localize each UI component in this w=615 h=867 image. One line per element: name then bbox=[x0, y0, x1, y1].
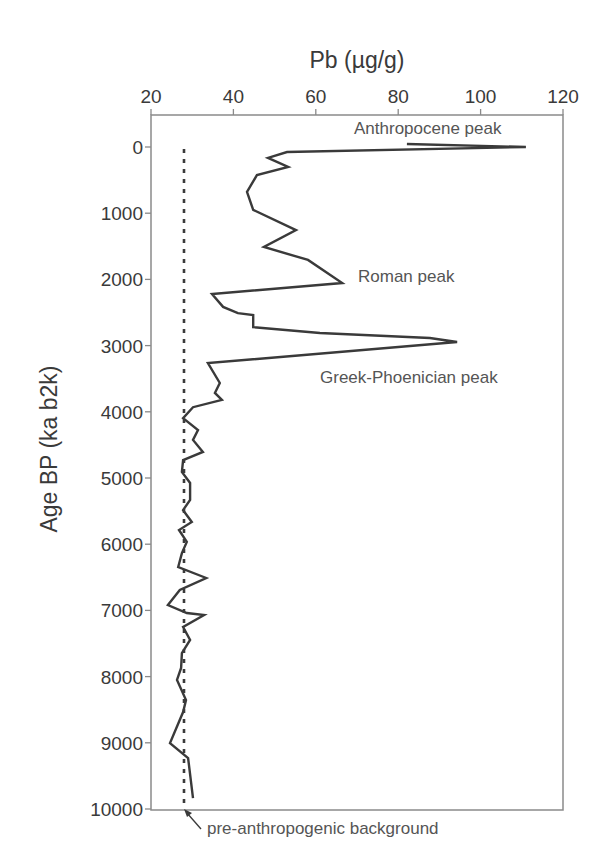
y-axis-title: Age BP (ka b2k) bbox=[36, 365, 62, 532]
pb-age-chart: 20406080100120 0100020003000400050006000… bbox=[0, 0, 615, 867]
y-tick-label: 3000 bbox=[101, 336, 143, 357]
annotation-roman-peak: Roman peak bbox=[358, 267, 455, 286]
y-tick-label: 6000 bbox=[101, 534, 143, 555]
x-tick-label: 120 bbox=[547, 86, 579, 107]
y-tick-label: 0 bbox=[132, 137, 143, 158]
y-tick-label: 5000 bbox=[101, 468, 143, 489]
annotation-pre-anthropogenic-background: pre-anthropogenic background bbox=[207, 819, 439, 838]
annotation-greek-phoenician-peak: Greek-Phoenician peak bbox=[320, 368, 498, 387]
x-tick-label: 20 bbox=[140, 86, 161, 107]
plot-frame bbox=[151, 115, 563, 810]
background-arrow-icon bbox=[184, 809, 201, 829]
y-tick-label: 1000 bbox=[101, 203, 143, 224]
y-tick-label: 9000 bbox=[101, 733, 143, 754]
annotation-anthropocene-peak: Anthropocene peak bbox=[354, 119, 502, 138]
x-tick-label: 40 bbox=[223, 86, 244, 107]
data-series bbox=[168, 144, 526, 809]
y-tick-label: 7000 bbox=[101, 600, 143, 621]
y-tick-label: 8000 bbox=[101, 667, 143, 688]
pb-concentration-line bbox=[168, 144, 526, 798]
x-axis-title: Pb (µg/g) bbox=[309, 47, 404, 73]
y-axis-ticks: 0100020003000400050006000700080009000100… bbox=[90, 137, 151, 820]
y-tick-label: 4000 bbox=[101, 402, 143, 423]
x-tick-label: 100 bbox=[465, 86, 497, 107]
y-tick-label: 2000 bbox=[101, 269, 143, 290]
y-tick-label: 10000 bbox=[90, 799, 143, 820]
x-axis-ticks: 20406080100120 bbox=[140, 86, 578, 115]
x-tick-label: 80 bbox=[388, 86, 409, 107]
x-tick-label: 60 bbox=[305, 86, 326, 107]
